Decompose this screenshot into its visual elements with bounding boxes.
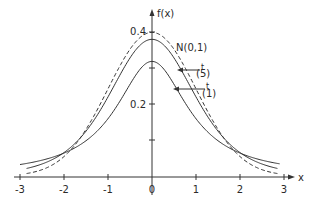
x-tick-label: -2	[59, 184, 69, 195]
x-axis-arrow-icon	[288, 175, 295, 180]
x-tick-label: 2	[237, 184, 243, 195]
x-axis-label: x	[298, 172, 304, 183]
x-tick-label: 0	[149, 184, 155, 195]
x-tick-label: -1	[103, 184, 113, 195]
x-tick-label: 3	[281, 184, 287, 195]
x-tick-label: -3	[15, 184, 25, 195]
y-tick-label: 0.4	[130, 26, 146, 37]
x-tick-label: 1	[193, 184, 199, 195]
y-axis-label: f(x)	[157, 8, 174, 19]
normal-label: N(0,1)	[176, 42, 207, 53]
density-chart: -3 -2 -1 0 1 2 3 0.4 0.2 f(x) x N(0,1) t…	[0, 0, 311, 206]
y-tick-label: 0.2	[130, 99, 146, 110]
t5-label-sub: (5)	[196, 68, 210, 79]
y-axis-arrow-icon	[150, 9, 155, 16]
t1-curve	[20, 61, 280, 164]
t1-label-sub: (1)	[202, 88, 216, 99]
